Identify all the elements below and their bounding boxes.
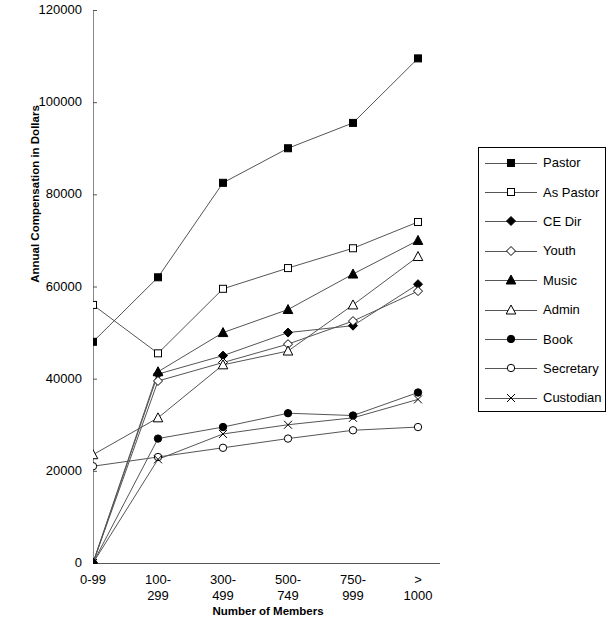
legend-item-music[interactable]: Music bbox=[479, 266, 605, 295]
x-tick-label: 500-749 bbox=[253, 573, 323, 602]
data-point-marker bbox=[507, 365, 514, 372]
x-tick-label: 100-299 bbox=[123, 573, 193, 602]
legend-label: Music bbox=[543, 273, 577, 288]
legend-item-ce-dir[interactable]: CE Dir bbox=[479, 207, 605, 236]
x-axis-title: Number of Members bbox=[93, 605, 443, 617]
x-tick-label: 750-999 bbox=[318, 573, 388, 602]
legend-label: Secretary bbox=[543, 361, 599, 376]
legend-item-as-pastor[interactable]: As Pastor bbox=[479, 177, 605, 206]
x-tick-label: 0-99 bbox=[58, 573, 128, 586]
legend-item-pastor[interactable]: Pastor bbox=[479, 148, 605, 177]
legend-label: Custodian bbox=[543, 390, 602, 405]
legend-label: Youth bbox=[543, 243, 576, 258]
legend-symbol-open-triangle-icon bbox=[483, 300, 539, 320]
x-tick-label: >1000 bbox=[383, 573, 453, 602]
x-tick-label-line: 499 bbox=[188, 589, 258, 602]
legend-item-youth[interactable]: Youth bbox=[479, 236, 605, 265]
legend-symbol-cross-icon bbox=[483, 388, 539, 408]
data-point-marker bbox=[507, 335, 514, 342]
legend-label: Pastor bbox=[543, 155, 581, 170]
legend: PastorAs PastorCE DirYouthMusicAdminBook… bbox=[478, 147, 606, 412]
legend-label: Book bbox=[543, 332, 573, 347]
x-tick-label-line: 750- bbox=[318, 573, 388, 586]
chart-root: Annual Compensation in Dollars 020000400… bbox=[0, 0, 614, 617]
legend-symbol-open-diamond-icon bbox=[483, 241, 539, 261]
data-point-marker bbox=[506, 305, 516, 314]
legend-item-admin[interactable]: Admin bbox=[479, 295, 605, 324]
legend-symbol-open-circle-icon bbox=[483, 358, 539, 378]
data-point-marker bbox=[507, 217, 516, 226]
x-tick-label-line: 749 bbox=[253, 589, 323, 602]
legend-symbol-open-square-icon bbox=[483, 182, 539, 202]
legend-symbol-filled-circle-icon bbox=[483, 329, 539, 349]
x-tick-label-line: > bbox=[383, 573, 453, 586]
legend-item-secretary[interactable]: Secretary bbox=[479, 354, 605, 383]
legend-label: CE Dir bbox=[543, 214, 581, 229]
legend-label: Admin bbox=[543, 302, 580, 317]
legend-item-custodian[interactable]: Custodian bbox=[479, 383, 605, 412]
data-point-marker bbox=[506, 275, 516, 284]
legend-symbol-filled-diamond-icon bbox=[483, 211, 539, 231]
data-point-marker bbox=[508, 189, 515, 196]
x-tick-label-line: 299 bbox=[123, 589, 193, 602]
data-point-marker bbox=[507, 246, 516, 255]
x-tick-label-line: 1000 bbox=[383, 589, 453, 602]
x-tick-label-line: 500- bbox=[253, 573, 323, 586]
legend-symbol-filled-triangle-icon bbox=[483, 270, 539, 290]
x-tick-label-line: 100- bbox=[123, 573, 193, 586]
legend-label: As Pastor bbox=[543, 185, 599, 200]
x-tick-label-line: 999 bbox=[318, 589, 388, 602]
legend-symbol-filled-square-icon bbox=[483, 153, 539, 173]
legend-item-book[interactable]: Book bbox=[479, 324, 605, 353]
x-tick-label-line: 0-99 bbox=[58, 573, 128, 586]
data-point-marker bbox=[508, 159, 515, 166]
x-tick-label-line: 300- bbox=[188, 573, 258, 586]
x-tick-label: 300-499 bbox=[188, 573, 258, 602]
